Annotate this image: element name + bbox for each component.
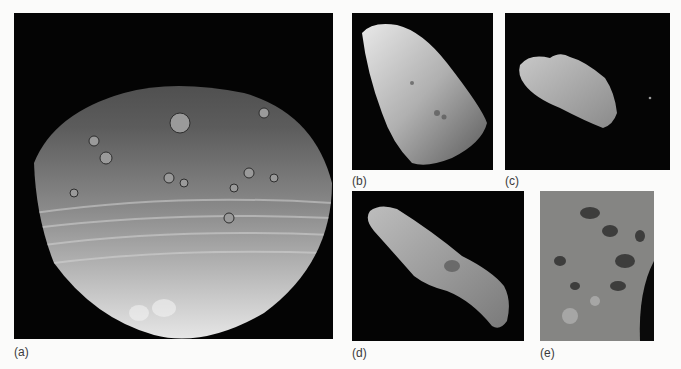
panel-label-b: (b) [352, 175, 367, 187]
panel-label-d: (d) [352, 347, 367, 359]
moon-dactyl [649, 97, 652, 100]
asteroid-vesta-image [14, 13, 333, 339]
asteroid-surface-closeup-image [540, 191, 654, 341]
asteroid-ida-image [505, 13, 670, 170]
image-panel-d [352, 191, 524, 341]
image-panel-c [505, 13, 670, 170]
image-panel-a [14, 13, 333, 339]
panel-label-c: (c) [505, 175, 519, 187]
asteroid-gaspra-image [352, 13, 493, 170]
panel-label-e: (e) [540, 347, 555, 359]
image-panel-e [540, 191, 654, 341]
panel-label-a: (a) [14, 346, 29, 358]
image-panel-b [352, 13, 493, 170]
asteroid-eros-image [352, 191, 524, 341]
